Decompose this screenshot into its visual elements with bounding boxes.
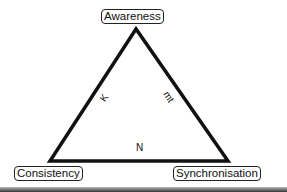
triangle-diagram xyxy=(0,0,287,192)
node-consistency: Consistency xyxy=(14,166,83,181)
bottom-border xyxy=(0,187,287,192)
node-synchronisation: Synchronisation xyxy=(173,166,261,181)
node-awareness: Awareness xyxy=(101,9,164,24)
edge-label-n: N xyxy=(136,143,143,153)
